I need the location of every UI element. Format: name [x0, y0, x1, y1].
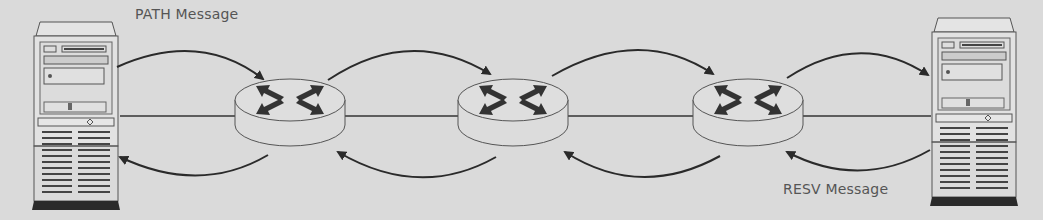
sender-server-icon [32, 22, 120, 210]
router-1-icon [235, 79, 345, 146]
path-message-label: PATH Message [135, 6, 238, 22]
path-flow [117, 50, 928, 80]
router-2-icon [458, 79, 568, 146]
receiver-server-icon [930, 18, 1018, 206]
resv-message-label: RESV Message [783, 181, 888, 197]
router-3-icon [693, 79, 803, 146]
resv-flow [120, 150, 930, 177]
rsvp-diagram: PATH Message RESV Message [0, 0, 1043, 220]
